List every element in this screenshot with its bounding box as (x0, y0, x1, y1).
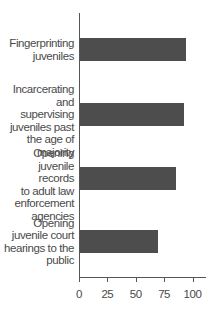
category-label-line: Incarcerating (0, 83, 74, 96)
x-tick-label: 25 (101, 288, 113, 300)
x-tick (193, 277, 194, 282)
category-label-line: the age of (0, 133, 74, 146)
category-label-line: Opening (0, 147, 74, 160)
horizontal-bar-chart: FingerprintingjuvenilesIncarceratingand … (0, 0, 210, 316)
category-label: Openingjuvenile courthearings to thepubl… (4, 217, 74, 267)
bar (80, 230, 158, 253)
x-axis-line (79, 277, 206, 278)
category-label-line: juveniles past (0, 121, 74, 134)
category-label-line: juvenile records (0, 160, 74, 185)
category-label-line: and supervising (0, 96, 74, 121)
category-label: Openingjuvenile recordsto adult lawenfor… (0, 147, 74, 222)
x-tick (164, 277, 165, 282)
category-label: Fingerprintingjuveniles (9, 37, 74, 62)
category-label-line: hearings to the (4, 242, 74, 255)
x-tick-label: 0 (76, 288, 82, 300)
category-label-line: juvenile court (4, 229, 74, 242)
bar (80, 38, 186, 61)
category-label-line: public (4, 254, 74, 267)
category-label-line: Fingerprinting (9, 37, 74, 50)
x-tick-label: 50 (130, 288, 142, 300)
bar (80, 103, 184, 126)
x-tick (136, 277, 137, 282)
x-tick-label: 100 (184, 288, 202, 300)
category-label-line: Opening (4, 217, 74, 230)
category-label-line: to adult law (0, 185, 74, 198)
x-tick (79, 277, 80, 282)
category-label-line: enforcement (0, 197, 74, 210)
category-label-line: juveniles (9, 50, 74, 63)
x-tick-label: 75 (158, 288, 170, 300)
x-tick (107, 277, 108, 282)
bar (80, 167, 176, 190)
